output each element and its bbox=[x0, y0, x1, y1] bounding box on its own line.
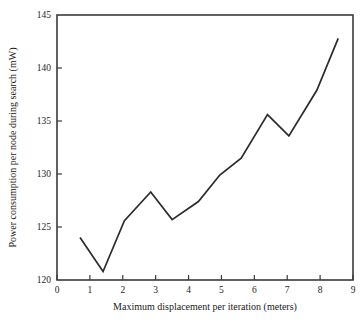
y-axis-title: Power consumption per node during search… bbox=[7, 48, 19, 248]
x-tick-label: 6 bbox=[252, 285, 257, 295]
chart-background bbox=[0, 0, 364, 326]
x-tick-label: 4 bbox=[186, 285, 191, 295]
y-tick-label: 145 bbox=[37, 10, 52, 20]
chart-figure: 0123456789 120125130135140145 Maximum di… bbox=[0, 0, 364, 326]
x-tick-label: 5 bbox=[219, 285, 224, 295]
x-axis-title: Maximum displacement per iteration (mete… bbox=[113, 301, 297, 313]
y-tick-label: 130 bbox=[37, 169, 52, 179]
y-tick-label: 120 bbox=[37, 275, 52, 285]
x-tick-label: 7 bbox=[285, 285, 290, 295]
x-tick-label: 0 bbox=[55, 285, 60, 295]
y-tick-label: 135 bbox=[37, 116, 52, 126]
x-tick-label: 9 bbox=[351, 285, 356, 295]
x-tick-label: 1 bbox=[88, 285, 93, 295]
x-tick-label: 3 bbox=[153, 285, 158, 295]
y-tick-label: 125 bbox=[37, 222, 52, 232]
y-tick-label: 140 bbox=[37, 63, 52, 73]
x-tick-label: 2 bbox=[120, 285, 125, 295]
line-chart: 0123456789 120125130135140145 Maximum di… bbox=[0, 0, 364, 326]
x-tick-label: 8 bbox=[318, 285, 323, 295]
